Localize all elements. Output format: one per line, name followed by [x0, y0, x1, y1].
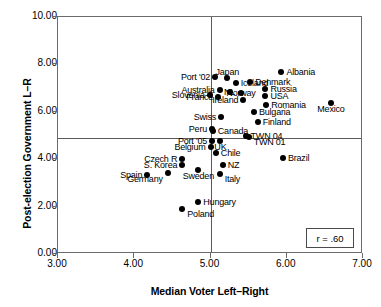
data-point	[165, 170, 171, 176]
x-tick-mark	[57, 253, 58, 258]
y-tick-label: 4.00	[11, 152, 57, 163]
x-tick-label: 3.00	[32, 258, 82, 269]
data-point-label: Brazil	[288, 153, 309, 162]
x-tick-mark	[133, 253, 134, 258]
data-point	[218, 114, 224, 120]
data-point-label: Sweden	[183, 171, 214, 180]
y-tick-label: 6.00	[11, 105, 57, 116]
data-point-label: France	[186, 93, 213, 102]
data-point-label: Mexico	[317, 104, 344, 113]
data-point-label: Port '02	[181, 73, 210, 82]
data-point-label: Chile	[221, 149, 241, 158]
y-tick-label: 2.00	[11, 200, 57, 211]
scatter-plot-figure: Post-election Government L–R Median Vote…	[0, 0, 381, 307]
correlation-annotation: r = .60	[306, 228, 354, 248]
x-tick-label: 5.00	[185, 258, 235, 269]
x-tick-mark	[210, 253, 211, 258]
data-point-label: Hungary	[203, 198, 236, 207]
data-point	[179, 156, 185, 162]
data-point	[212, 74, 218, 80]
y-tick-label: 10.00	[11, 10, 57, 21]
x-tick-label: 4.00	[108, 258, 158, 269]
data-point-label: Peru	[189, 124, 207, 133]
y-tick-label: 0.00	[11, 247, 57, 258]
data-point	[220, 162, 226, 168]
data-point	[195, 199, 201, 205]
data-point	[280, 155, 286, 161]
data-point-label: S. Korea	[144, 160, 177, 169]
data-point	[210, 128, 216, 134]
x-axis-title: Median Voter Left–Right	[57, 285, 362, 297]
data-point	[217, 171, 223, 177]
data-point-label: Italy	[225, 174, 241, 183]
data-point-label: Swiss	[194, 113, 217, 122]
data-point	[217, 87, 223, 93]
x-tick-mark	[362, 253, 363, 258]
data-point	[233, 80, 239, 86]
data-point	[278, 69, 284, 75]
data-point-label: TWN 01	[254, 138, 286, 147]
x-tick-mark	[286, 253, 287, 258]
correlation-value: r = .60	[316, 233, 343, 244]
data-point-label: Ireland	[212, 96, 238, 105]
data-point-label: NZ	[228, 160, 240, 169]
data-point-label: Albania	[286, 67, 315, 76]
plot-area: AlbaniaJapanPort '02IcelandDenmarkRussia…	[57, 16, 362, 253]
data-point	[251, 109, 257, 115]
data-point	[213, 150, 219, 156]
x-tick-label: 6.00	[261, 258, 311, 269]
x-tick-label: 7.00	[337, 258, 381, 269]
data-point	[262, 93, 268, 99]
data-point-label: Japan	[216, 68, 240, 77]
data-point	[240, 97, 246, 103]
data-point	[179, 206, 185, 212]
data-point	[262, 86, 268, 92]
data-point-label: Finland	[263, 117, 291, 126]
data-point-label: Germany	[127, 174, 163, 183]
data-point-label: Belgium	[174, 142, 205, 151]
data-point	[255, 119, 261, 125]
y-tick-label: 8.00	[11, 57, 57, 68]
data-point-label: Poland	[187, 210, 214, 219]
data-point	[208, 144, 214, 150]
data-point	[179, 162, 185, 168]
